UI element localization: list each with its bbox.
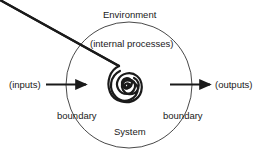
environment-label: Environment [103,9,156,20]
boundary-right-label: boundary [163,110,203,121]
internal-processes-label: (internal processes) [90,38,173,49]
boundary-left-label: boundary [57,110,97,121]
system-label: System [114,126,146,137]
inputs-label: (inputs) [9,79,41,90]
outputs-label: (outputs) [215,79,253,90]
spiral-outer-tail [0,0,119,66]
